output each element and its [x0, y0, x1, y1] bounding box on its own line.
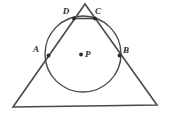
point-label-c: C — [95, 6, 102, 16]
inscribed-circle — [45, 16, 121, 92]
vertex-dot-c — [93, 17, 97, 21]
vertex-dot-a — [47, 54, 51, 58]
point-label-a: A — [32, 44, 39, 54]
center-point-dot — [79, 53, 83, 57]
vertex-dot-b — [118, 54, 122, 58]
geometry-figure: A B C D P — [0, 0, 170, 115]
point-label-d: D — [62, 6, 70, 16]
point-label-b: B — [122, 45, 129, 55]
geometry-canvas: A B C D P — [0, 0, 170, 115]
point-label-p: P — [85, 49, 91, 59]
vertex-dot-d — [72, 17, 76, 21]
